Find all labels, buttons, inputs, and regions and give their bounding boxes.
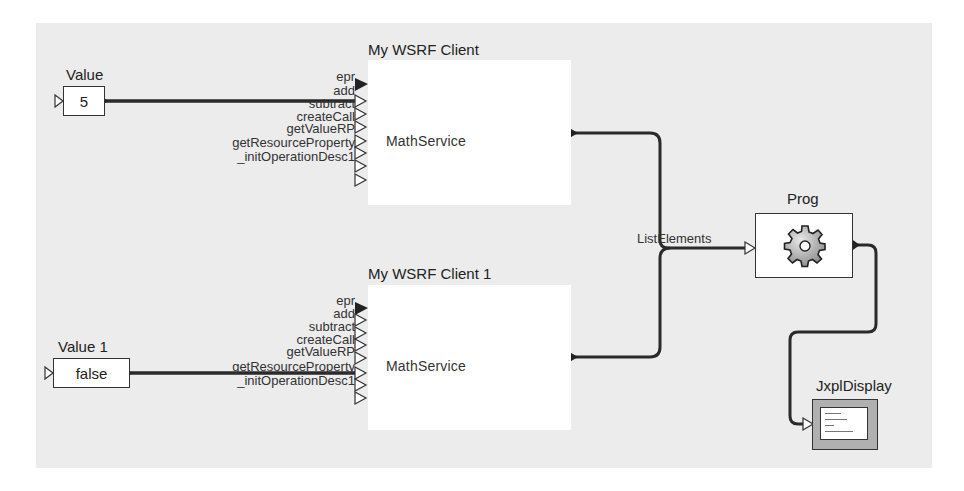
port-getvaluerp[interactable]: getValueRP xyxy=(287,345,355,358)
gear-icon xyxy=(782,223,828,269)
value1-node-value: false xyxy=(76,365,108,382)
port-initoperationdesc1[interactable]: _initOperationDesc1 xyxy=(237,374,355,387)
client-service-label: MathService xyxy=(386,133,466,149)
value1-node[interactable]: false xyxy=(53,358,130,388)
client-node[interactable]: MathService xyxy=(368,60,571,205)
prog-input-label: ListElements xyxy=(637,231,711,246)
value-node-value: 5 xyxy=(80,93,88,110)
value1-node-title: Value 1 xyxy=(58,338,108,355)
display-window-icon xyxy=(820,407,868,440)
client1-node[interactable]: MathService xyxy=(368,285,571,430)
value-node-title: Value xyxy=(66,66,103,83)
prog-node-title: Prog xyxy=(787,190,819,207)
port-getresourceproperty[interactable]: getResourceProperty xyxy=(232,136,355,149)
prog-node[interactable] xyxy=(755,213,853,278)
display-node-title: JxplDisplay xyxy=(816,377,892,394)
display-node[interactable] xyxy=(812,399,878,450)
port-getresourceproperty[interactable]: getResourceProperty xyxy=(232,360,355,373)
client-node-title: My WSRF Client xyxy=(368,41,479,58)
client1-node-title: My WSRF Client 1 xyxy=(368,265,491,282)
port-initoperationdesc1[interactable]: _initOperationDesc1 xyxy=(237,150,355,163)
port-epr[interactable]: epr xyxy=(336,70,355,83)
value-node[interactable]: 5 xyxy=(63,86,105,116)
port-getvaluerp[interactable]: getValueRP xyxy=(287,122,355,135)
client1-service-label: MathService xyxy=(386,358,466,374)
